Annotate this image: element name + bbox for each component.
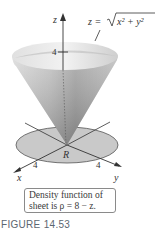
equation-lhs: z = [87,16,104,27]
cone-rim [12,42,118,70]
callout-line-2: sheet is ρ = 8 − z. [29,201,111,212]
x-axis-label: x [16,172,22,183]
x-tick-label: 4 [33,160,38,170]
y-tick-label: 4 [96,160,101,170]
z-tick-label: 4 [52,47,57,57]
equation-leader [95,30,100,41]
y-axis-label: y [113,172,119,183]
y-axis-arrow-icon [114,162,122,167]
z-axis-label: z [52,14,57,25]
equation-radicand: x² + y² [116,16,145,27]
z-axis-arrow-icon [60,13,66,21]
cone-equation: z = x² + y² [87,13,155,27]
figure-caption: FIGURE 14.53 [1,219,70,230]
density-callout-box: Density function of sheet is ρ = 8 − z. [24,188,116,213]
region-label: R [62,149,69,160]
callout-line-1: Density function of [29,190,111,201]
